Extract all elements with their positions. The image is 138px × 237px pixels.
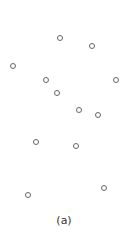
circle-point-icon xyxy=(95,112,101,118)
figure-caption: (a) xyxy=(56,214,71,227)
circle-point-icon xyxy=(76,107,82,113)
circle-point-icon xyxy=(113,77,119,83)
circle-point-icon xyxy=(57,35,63,41)
circle-point-icon xyxy=(101,185,107,191)
circle-point-icon xyxy=(54,90,60,96)
circle-point-icon xyxy=(25,192,31,198)
circle-point-icon xyxy=(33,139,39,145)
circle-point-icon xyxy=(73,143,79,149)
circle-point-icon xyxy=(89,43,95,49)
circle-point-icon xyxy=(43,77,49,83)
circle-point-icon xyxy=(10,63,16,69)
point-scatter-figure: (a) xyxy=(0,0,138,237)
